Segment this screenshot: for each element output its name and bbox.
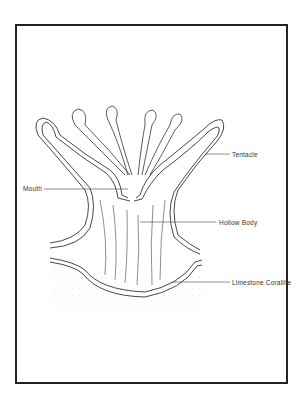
body-lines [100,200,165,285]
label-mouth: Mouth [23,185,42,192]
inner-tentacles [72,106,182,175]
label-tentacle: Tentacle [232,151,258,158]
label-hollow-body: Hollow Body [219,219,257,226]
label-limestone-corallite: Limestone Corallite [232,279,291,286]
polyp-illustration [0,0,303,399]
